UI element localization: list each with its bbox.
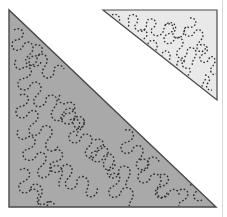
quilt-illustration xyxy=(0,0,227,217)
quilt-svg xyxy=(0,0,227,217)
small-triangle-patch xyxy=(103,10,218,100)
